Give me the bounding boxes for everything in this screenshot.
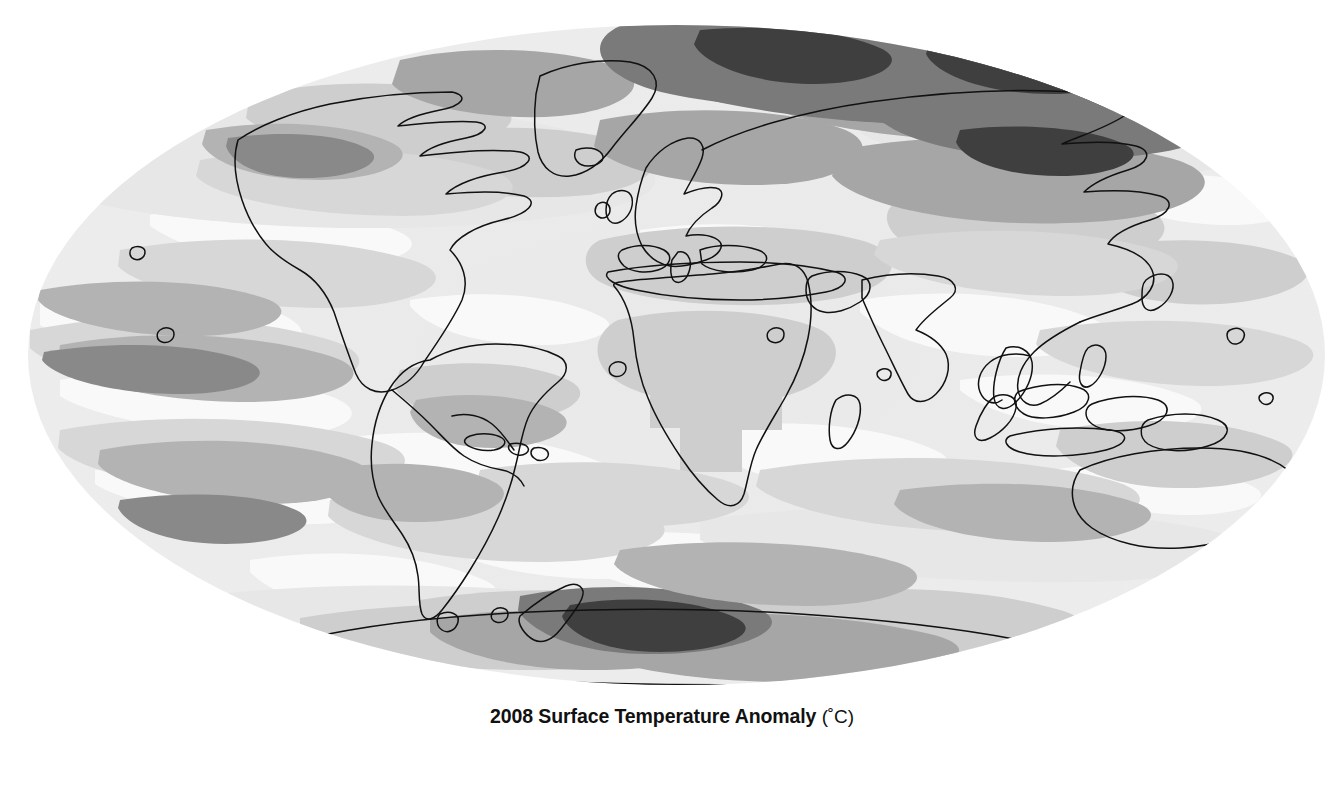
world-anomaly-map xyxy=(0,0,1344,700)
figure-page: 2008 Surface Temperature Anomaly (˚C) -3… xyxy=(0,0,1344,808)
legend-units-text: (˚C) xyxy=(822,706,854,727)
legend-title-text: 2008 Surface Temperature Anomaly xyxy=(490,705,816,727)
legend-panel: 2008 Surface Temperature Anomaly (˚C) -3… xyxy=(0,700,1344,808)
grain-overlay xyxy=(0,0,1344,700)
mollweide-map-svg xyxy=(0,0,1344,700)
anomaly-field xyxy=(0,0,1344,700)
legend-title: 2008 Surface Temperature Anomaly (˚C) xyxy=(0,705,1344,728)
